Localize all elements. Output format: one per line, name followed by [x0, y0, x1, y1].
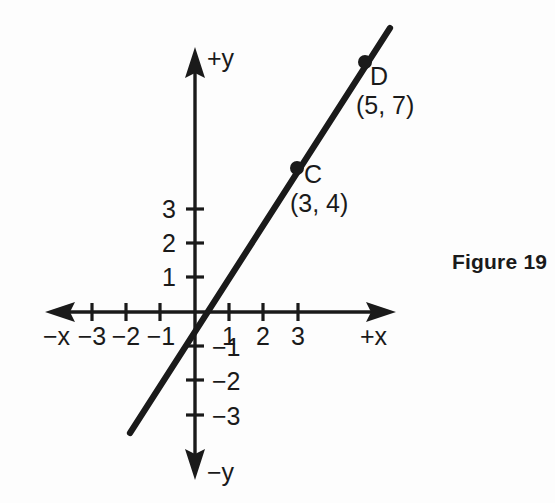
- point-c-marker: [290, 161, 304, 175]
- x-tick-label-3: 3: [291, 322, 305, 350]
- point-d-name-label: D: [370, 62, 388, 90]
- y-tick-label-neg2: −2: [212, 367, 241, 395]
- figure-19-container: −3 −2 −1 1 2 3 3 2 1 −1 −2 −3 −x +x +y −…: [0, 0, 555, 503]
- y-tick-label-neg3: −3: [212, 402, 241, 430]
- x-tick-label-2: 2: [256, 322, 270, 350]
- figure-caption: Figure 19: [452, 250, 547, 274]
- y-tick-label-neg1: −1: [212, 333, 241, 361]
- point-c-coords-label: (3, 4): [290, 189, 348, 217]
- y-tick-label-1: 1: [162, 263, 176, 291]
- x-tick-label-neg2: −2: [112, 322, 141, 350]
- y-axis-negative-label: −y: [207, 458, 235, 486]
- x-tick-label-neg1: −1: [147, 322, 176, 350]
- x-axis-negative-label: −x: [43, 322, 71, 350]
- x-tick-label-neg3: −3: [78, 322, 107, 350]
- y-tick-label-2: 2: [162, 229, 176, 257]
- y-axis-positive-label: +y: [207, 44, 235, 72]
- point-c-name-label: C: [304, 160, 322, 188]
- x-axis-positive-label: +x: [360, 322, 388, 350]
- y-tick-label-3: 3: [162, 195, 176, 223]
- point-d-coords-label: (5, 7): [356, 91, 414, 119]
